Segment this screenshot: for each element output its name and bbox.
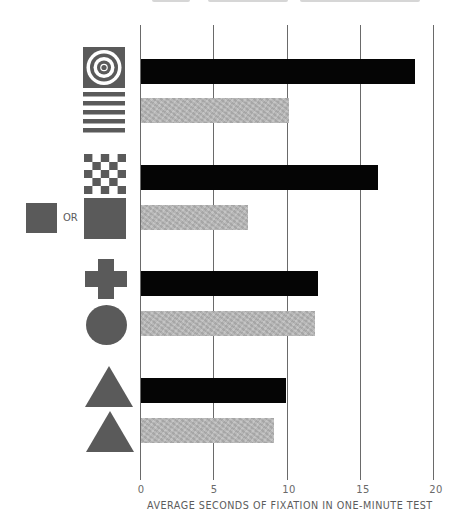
cropped-header-text: [208, 0, 288, 2]
gridline-5: [213, 25, 214, 480]
bar-circle: [141, 311, 315, 336]
bar-triangle-2: [141, 418, 274, 443]
gridline-0: [140, 25, 141, 480]
checkerboard-icon: [84, 154, 126, 194]
x-tick-10: 10: [282, 484, 295, 495]
x-axis-label: AVERAGE SECONDS OF FIXATION IN ONE-MINUT…: [147, 500, 433, 511]
gridline-20: [433, 25, 434, 480]
cross-icon: [85, 259, 127, 299]
bar-cross: [141, 271, 318, 296]
or-label: OR: [63, 212, 78, 223]
bar-bullseye: [141, 59, 415, 84]
bar-stripes: [141, 98, 289, 123]
cropped-header-text: [300, 0, 420, 2]
cropped-header-text: [152, 0, 190, 2]
x-tick-20: 20: [429, 484, 442, 495]
x-tick-5: 5: [211, 484, 218, 495]
bullseye-icon: [83, 47, 125, 88]
bar-plain-square: [141, 205, 248, 230]
horizontal-stripes-icon: [83, 92, 125, 133]
triangle-icon-2: [86, 411, 134, 452]
gridline-10: [287, 25, 288, 480]
bar-triangle-1: [141, 378, 286, 403]
x-tick-15: 15: [356, 484, 369, 495]
small-square-icon: [26, 203, 57, 233]
large-square-icon: [84, 198, 126, 239]
gridline-15: [360, 25, 361, 480]
triangle-icon-1: [85, 366, 133, 407]
bar-checkerboard: [141, 165, 378, 190]
x-tick-0: 0: [138, 484, 145, 495]
circle-icon: [86, 305, 127, 345]
